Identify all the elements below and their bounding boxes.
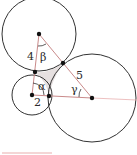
label-angle-gamma: γ [71, 83, 78, 96]
tangent-point-3 [47, 94, 51, 98]
angle-arc-gamma [79, 89, 81, 97]
tangent-point-2 [61, 61, 65, 65]
extension-line [92, 98, 137, 100]
tangent-point-1 [33, 70, 37, 74]
label-side-small: 2 [34, 96, 41, 109]
caption-remnant [2, 152, 52, 154]
label-angle-beta: β [40, 51, 46, 64]
label-side-large: 5 [76, 69, 83, 82]
diagram-canvas: 4 β 5 α γ 2 [0, 0, 137, 155]
angle-arc-beta [38, 44, 46, 46]
label-angle-alpha: α [38, 80, 46, 93]
center-point-large [90, 96, 94, 100]
center-point-top [37, 32, 41, 36]
label-side-top: 4 [27, 50, 34, 63]
